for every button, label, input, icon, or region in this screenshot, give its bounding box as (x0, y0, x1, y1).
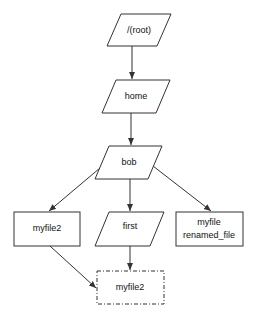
node-label: myfile2 (116, 282, 145, 292)
node-myfile2-moved: myfile2 (97, 271, 164, 304)
node-bob: bob (95, 146, 162, 179)
node-myfile2: myfile2 (14, 212, 80, 246)
node-home: home (102, 80, 170, 113)
node-label: myfile2 (33, 223, 62, 233)
node-label: /(root) (127, 25, 151, 35)
node-label: home (125, 91, 148, 101)
edge-bob-renamed (153, 166, 211, 211)
node-first: first (95, 212, 164, 246)
filesystem-tree-diagram: /(root) home bob myfile2 first myfile re… (0, 0, 257, 323)
node-label: first (123, 221, 138, 231)
node-label-line2: renamed_file (183, 230, 235, 240)
node-label-line1: myfile (197, 217, 221, 227)
edge-bob-myfile2 (49, 168, 100, 211)
node-label: bob (121, 157, 136, 167)
node-root: /(root) (107, 14, 171, 46)
edge-myfile2-moved (50, 246, 96, 288)
node-renamed-file: myfile renamed_file (176, 212, 243, 246)
